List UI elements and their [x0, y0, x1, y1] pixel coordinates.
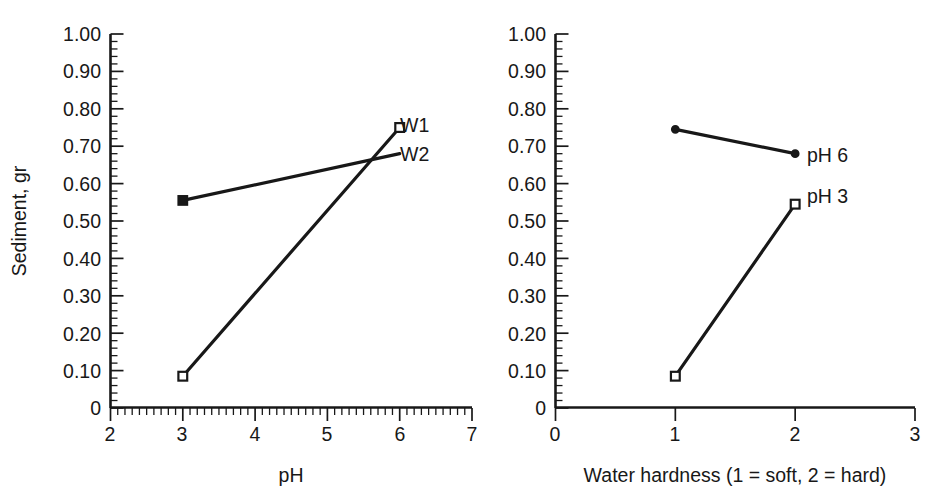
right-ytick-label: 0 — [535, 397, 546, 419]
data-line-w2 — [183, 154, 400, 201]
left-y-axis-title: Sediment, gr — [8, 165, 30, 276]
right-series-group — [671, 126, 800, 381]
right-ytick-label: 0.50 — [508, 210, 546, 232]
left-xtick-label: 3 — [177, 423, 188, 445]
right-series-label-ph3: pH 3 — [807, 185, 848, 207]
left-x-axis-title: pH — [279, 464, 304, 486]
right-x-tick-group — [556, 408, 916, 421]
marker-ph-6 — [792, 150, 799, 157]
right-ytick-label: 0.80 — [508, 98, 546, 120]
left-xtick-label: 6 — [395, 423, 406, 445]
data-line-ph-6 — [675, 129, 795, 153]
left-ytick-label: 0.50 — [63, 210, 101, 232]
left-ytick-label: 0.40 — [63, 248, 101, 270]
marker-w1 — [178, 372, 187, 381]
left-ytick-label: 0.60 — [63, 173, 101, 195]
left-series-label-w1: W1 — [400, 114, 429, 136]
data-line-ph-3 — [675, 204, 795, 376]
left-ytick-label: 0.70 — [63, 135, 101, 157]
marker-w2 — [178, 196, 187, 205]
marker-ph-3 — [671, 372, 680, 381]
left-xtick-label: 5 — [322, 423, 333, 445]
data-line-w1 — [183, 128, 400, 377]
left-series-label-w2: W2 — [400, 143, 429, 165]
right-ytick-label: 0.10 — [508, 360, 546, 382]
right-ytick-label: 0.60 — [508, 173, 546, 195]
left-ytick-label: 0.80 — [63, 98, 101, 120]
right-ytick-label: 0.40 — [508, 248, 546, 270]
left-ytick-label: 0.90 — [63, 60, 101, 82]
left-series-group — [178, 123, 404, 381]
right-plot-svg: 1.00 0.90 0.80 0.70 0.60 0.50 0.40 0.30 … — [470, 0, 947, 501]
chart-panel-left-ph: Sediment, gr 1.00 0.90 0.80 0.70 0.60 0.… — [0, 0, 475, 501]
right-xtick-label: 2 — [790, 423, 801, 445]
right-x-axis-title: Water hardness (1 = soft, 2 = hard) — [584, 464, 887, 486]
marker-ph-6 — [672, 126, 679, 133]
marker-ph-3 — [791, 200, 800, 209]
left-ytick-label: 0 — [90, 397, 101, 419]
left-ytick-label: 0.20 — [63, 323, 101, 345]
right-series-label-ph6: pH 6 — [807, 144, 848, 166]
left-ytick-label: 0.30 — [63, 285, 101, 307]
left-xtick-label: 2 — [105, 423, 116, 445]
right-ytick-label: 0.70 — [508, 135, 546, 157]
right-ytick-label: 0.90 — [508, 60, 546, 82]
right-y-tick-group — [556, 34, 569, 408]
left-ytick-label: 0.10 — [63, 360, 101, 382]
right-xtick-label: 1 — [670, 423, 681, 445]
right-xtick-label: 3 — [910, 423, 921, 445]
right-ytick-label: 0.20 — [508, 323, 546, 345]
right-xtick-label: 0 — [550, 423, 561, 445]
left-plot-svg: Sediment, gr 1.00 0.90 0.80 0.70 0.60 0.… — [0, 0, 475, 501]
left-xtick-label: 4 — [250, 423, 261, 445]
left-ytick-label: 1.00 — [63, 23, 101, 45]
right-ytick-label: 1.00 — [508, 23, 546, 45]
chart-panel-right-hardness: 1.00 0.90 0.80 0.70 0.60 0.50 0.40 0.30 … — [470, 0, 947, 501]
figure-two-panel-line-charts: Sediment, gr 1.00 0.90 0.80 0.70 0.60 0.… — [0, 0, 947, 501]
right-ytick-label: 0.30 — [508, 285, 546, 307]
left-x-tick-group — [111, 408, 473, 421]
left-y-tick-group — [111, 34, 124, 408]
